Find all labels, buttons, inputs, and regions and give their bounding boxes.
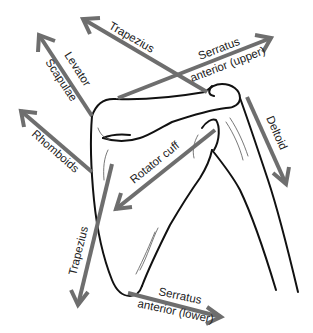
diagram-svg: Trapezius Serratus anterior (upper) Leva…	[0, 0, 313, 333]
label-rhomboids: Rhomboids	[30, 127, 82, 174]
scapula-bone	[91, 84, 298, 296]
arrow-trapezius-upper	[83, 18, 207, 92]
scapula-diagram: Trapezius Serratus anterior (upper) Leva…	[0, 0, 313, 333]
arrow-rotator-cuff	[116, 130, 215, 209]
label-serratus-lower-2: anterior (lower)	[137, 297, 215, 325]
arrow-rhomboids	[21, 111, 92, 172]
